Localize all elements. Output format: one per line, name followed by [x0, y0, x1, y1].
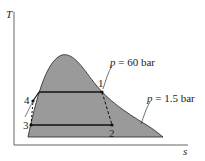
- state-point-4: [31, 99, 34, 102]
- state-point-3: [29, 123, 32, 126]
- s-axis-label: s: [183, 145, 187, 157]
- state-point-1: [100, 90, 103, 93]
- leader-1p5bar: [141, 102, 150, 124]
- ts-diagram: T s 1 2 3 4 p = 60 bar p = 1.5 bar: [0, 0, 205, 161]
- pressure-value: = 1.5 bar: [153, 92, 196, 104]
- state-label-3: 3: [23, 119, 29, 131]
- t-axis-label: T: [6, 8, 13, 20]
- leader-60bar: [103, 66, 112, 89]
- state-label-1: 1: [98, 77, 104, 89]
- state-label-4: 4: [24, 94, 30, 106]
- pressure-value: = 60 bar: [116, 56, 156, 68]
- state-label-2: 2: [109, 127, 115, 139]
- isobar-label-60bar: p = 60 bar: [109, 56, 155, 68]
- isobar-label-1p5bar: p = 1.5 bar: [146, 92, 195, 104]
